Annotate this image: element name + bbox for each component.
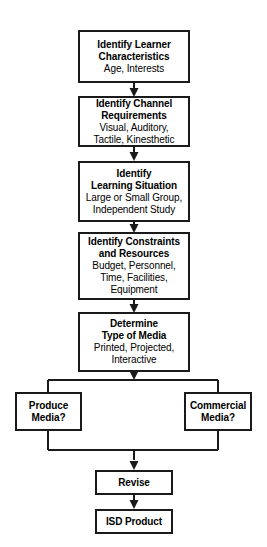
node-identify-channel[interactable]: Identify Channel Requirements Visual, Au…	[78, 96, 190, 147]
node-subtitle: Age, Interests	[104, 63, 164, 75]
flowchart-canvas: Identify Learner Characteristics Age, In…	[0, 0, 267, 547]
node-identify-constraints[interactable]: Identify Constraints and Resources Budge…	[78, 232, 190, 300]
arrowhead-product	[130, 500, 139, 509]
node-title: Commercial Media?	[190, 400, 246, 424]
node-identify-learner[interactable]: Identify Learner Characteristics Age, In…	[78, 30, 190, 83]
arrowhead-split	[130, 371, 139, 380]
node-title: Identify Channel Requirements	[96, 98, 172, 122]
node-subtitle: Large or Small Group, Independent Study	[86, 192, 182, 216]
node-title: ISD Product	[106, 516, 162, 528]
node-commercial-media[interactable]: Commercial Media?	[184, 392, 252, 431]
node-subtitle: Visual, Auditory, Tactile, Kinesthetic	[94, 122, 175, 146]
node-title: Determine Type of Media	[102, 318, 167, 342]
node-title: Identify Learner Characteristics	[97, 39, 170, 63]
node-title: Produce Media?	[29, 400, 68, 424]
node-subtitle: Budget, Personnel, Time, Facilities, Equ…	[92, 260, 175, 296]
arrowhead-revise	[130, 461, 139, 470]
node-determine-media[interactable]: Determine Type of Media Printed, Project…	[78, 312, 190, 372]
node-revise[interactable]: Revise	[95, 470, 173, 495]
arrowhead-situation	[130, 152, 139, 161]
node-produce-media[interactable]: Produce Media?	[15, 392, 82, 431]
node-title: Identify Learning Situation	[91, 168, 177, 192]
node-identify-learning-situation[interactable]: Identify Learning Situation Large or Sma…	[78, 161, 190, 222]
node-title: Revise	[118, 477, 150, 489]
node-isd-product[interactable]: ISD Product	[95, 509, 173, 534]
node-subtitle: Printed, Projected, Interactive	[94, 342, 174, 366]
node-title: Identify Constraints and Resources	[88, 236, 180, 260]
